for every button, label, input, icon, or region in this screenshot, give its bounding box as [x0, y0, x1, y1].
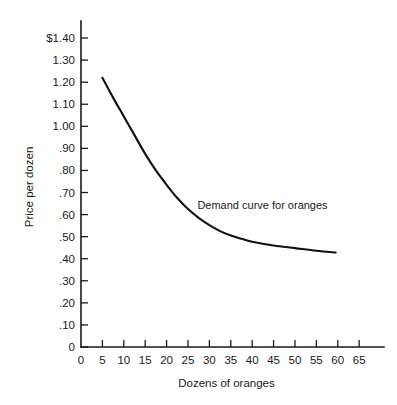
- x-tick-label: 65: [353, 354, 366, 366]
- y-tick-label: .50: [59, 231, 75, 243]
- x-tick-label: 20: [160, 354, 173, 366]
- x-axis-ticks: 05101520253035404550556065: [78, 340, 366, 366]
- y-tick-label: 1.30: [53, 54, 75, 66]
- y-tick-label: 1.20: [53, 76, 75, 88]
- demand-curve-chart: 0.10.20.30.40.50.60.70.80.901.001.101.20…: [0, 0, 397, 405]
- x-tick-label: 50: [289, 354, 302, 366]
- y-tick-label: .60: [59, 209, 75, 221]
- x-tick-label: 25: [182, 354, 195, 366]
- x-tick-label: 40: [246, 354, 259, 366]
- x-tick-label: 35: [224, 354, 237, 366]
- demand-curve-line: [102, 78, 335, 253]
- plot-series-group: [102, 78, 335, 253]
- y-tick-label: .40: [59, 253, 75, 265]
- x-tick-label: 45: [267, 354, 280, 366]
- x-tick-label: 30: [203, 354, 216, 366]
- y-tick-label: .80: [59, 164, 75, 176]
- y-tick-label: $1.40: [46, 32, 75, 44]
- x-tick-label: 60: [331, 354, 344, 366]
- chart-annotations: Demand curve for oranges: [197, 199, 328, 211]
- y-axis-title: Price per dozen: [23, 147, 35, 228]
- y-axis-group: 0.10.20.30.40.50.60.70.80.901.001.101.20…: [46, 21, 88, 353]
- curve-annotation-label: Demand curve for oranges: [197, 199, 328, 211]
- x-axis-title: Dozens of oranges: [178, 377, 275, 389]
- x-tick-label: 15: [139, 354, 152, 366]
- x-tick-label: 5: [99, 354, 105, 366]
- x-tick-label: 10: [117, 354, 130, 366]
- y-tick-label: .30: [59, 275, 75, 287]
- demand-curve-figure: 0.10.20.30.40.50.60.70.80.901.001.101.20…: [0, 0, 397, 405]
- y-tick-label: .90: [59, 142, 75, 154]
- y-tick-label: .20: [59, 297, 75, 309]
- y-tick-label: 1.00: [53, 120, 75, 132]
- x-axis-group: 05101520253035404550556065: [78, 340, 384, 366]
- x-tick-label: 55: [310, 354, 323, 366]
- y-tick-label: .10: [59, 319, 75, 331]
- y-tick-label: 0: [69, 341, 75, 353]
- y-tick-label: .70: [59, 187, 75, 199]
- y-tick-label: 1.10: [53, 98, 75, 110]
- x-tick-label: 0: [78, 354, 84, 366]
